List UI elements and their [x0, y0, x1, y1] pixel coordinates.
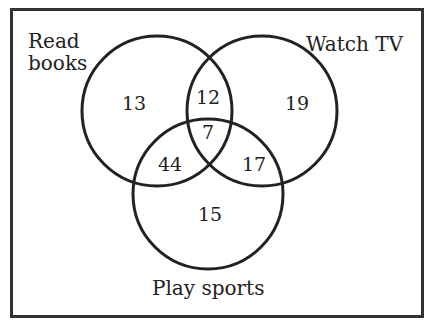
label-read: Read [28, 30, 87, 52]
region-tv-only: 19 [285, 92, 309, 114]
label-watch-tv: Watch TV [306, 33, 403, 55]
label-play-sports: Play sports [152, 277, 264, 299]
region-read-only: 13 [122, 92, 146, 114]
region-all-three: 7 [202, 121, 214, 143]
region-read-sports: 44 [158, 153, 182, 175]
region-sports-only: 15 [198, 203, 222, 225]
region-read-tv: 12 [196, 86, 220, 108]
label-read-books: Read books [28, 30, 87, 74]
region-tv-sports: 17 [242, 153, 266, 175]
label-books: books [28, 52, 87, 74]
